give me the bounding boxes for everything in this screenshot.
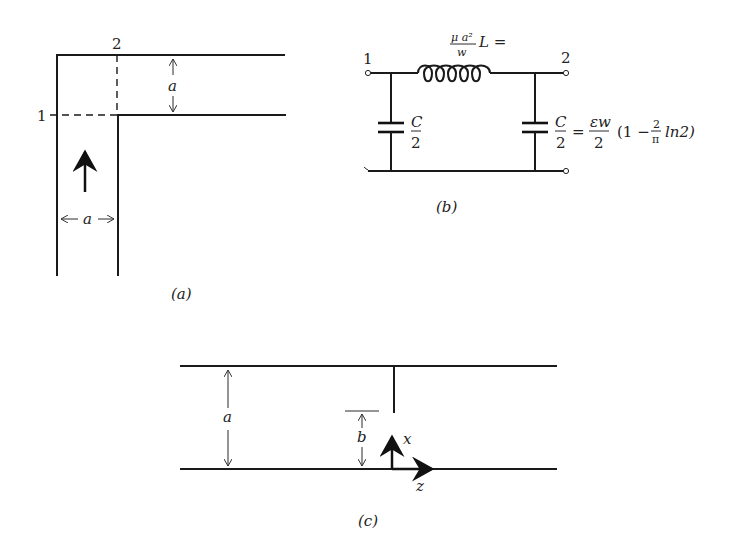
paren-open: (1 − [617,123,650,141]
port-2-label: 2 [112,35,122,53]
port-1-ground-terminal [364,167,368,170]
left-cap-numerator: C [411,113,423,131]
inductor-lhs: L = [478,33,506,51]
figure-b: C 2 1 2 L = μ a² w C 2 = εw 2 (1 − 2 π l… [363,31,695,216]
rhs-numerator: εw [590,113,611,131]
caption-a: (a) [171,285,192,303]
port-2-ground-terminal [563,168,568,173]
figure-c: a b x z (c) [180,366,557,530]
inductor-icon [418,66,490,82]
port-1-terminal [365,70,370,75]
frac-den: π [652,133,659,146]
equals-sign: = [572,123,585,141]
dim-height-label: a [168,77,177,95]
port-2-terminal [563,70,568,75]
axis-z-label: z [415,477,424,495]
right-cap-denominator: 2 [556,134,566,152]
dim-height-label: a [223,408,232,426]
port-2-label: 2 [561,49,571,67]
left-cap-denominator: 2 [411,134,421,152]
caption-b: (b) [436,198,457,216]
port-1-label: 1 [363,50,373,68]
dim-post-gap-label: b [357,428,367,446]
paren-close: ln2) [665,123,695,141]
axis-x-label: x [403,430,412,448]
inductor-denominator: w [457,46,467,59]
port-1-label: 1 [37,107,47,125]
inner-wall [118,115,286,276]
caption-c: (c) [358,512,378,530]
inductor-numerator: μ a² [451,31,473,44]
waveguide-diagram: 1 2 a a (a) C 2 [0,0,734,552]
figure-a: 1 2 a a (a) [37,35,286,303]
rhs-denominator: 2 [594,134,604,152]
frac-num: 2 [653,118,660,131]
right-cap-numerator: C [555,113,567,131]
dim-width-label: a [83,210,92,228]
